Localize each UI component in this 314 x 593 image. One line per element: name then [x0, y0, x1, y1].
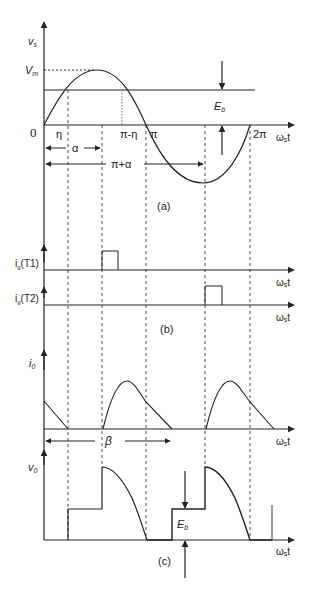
caption-b: (b): [160, 323, 173, 335]
origin-label: 0: [30, 125, 37, 140]
x-label-t1: ωst: [276, 277, 290, 288]
x-label-io: ωst: [276, 436, 290, 447]
vs-sine-wave: [44, 70, 250, 183]
vo-waveform-2: [147, 467, 272, 540]
caption-c: (c): [158, 555, 171, 567]
t2-gate-pulse: [205, 286, 222, 305]
panel-io: i0 β ωst: [29, 350, 294, 448]
beta-label: β: [104, 434, 112, 448]
io-initial-decay: [44, 401, 68, 429]
x-label-a: ωst: [276, 132, 290, 143]
caption-a: (a): [157, 200, 170, 212]
pi-minus-eta-label: π-η: [120, 128, 137, 140]
rectifier-waveform-diagram: vs Vm Eb 0 η π-η π 2π ωst α π+α (a): [0, 0, 314, 593]
panel-b: ig(T1) ωst ig(T2) ωst (b): [15, 200, 294, 540]
pi-plus-alpha-label: π+α: [111, 158, 132, 170]
vs-label: vs: [28, 35, 38, 48]
vm-label: Vm: [25, 64, 38, 77]
io-pulse-1: [103, 381, 172, 429]
t2-label: ig(T2): [15, 293, 39, 305]
vo-label: v0: [28, 461, 38, 474]
io-label: i0: [29, 357, 35, 370]
vo-waveform-1: [68, 467, 147, 540]
t1-label: ig(T1): [15, 258, 39, 270]
guide-lines: [68, 90, 250, 540]
alpha-label: α: [72, 142, 79, 154]
t1-gate-pulse: [102, 251, 118, 270]
eb-label-a: Eb: [214, 100, 225, 113]
x-label-t2: ωst: [276, 312, 290, 323]
panel-a: vs Vm Eb 0 η π-η π 2π ωst α π+α (a): [25, 22, 294, 212]
pi-label: π: [150, 128, 158, 140]
eta-label: η: [56, 128, 62, 140]
eb-label-c: Eb: [177, 518, 188, 531]
x-label-vo: ωst: [276, 546, 290, 557]
two-pi-label: 2π: [253, 128, 267, 140]
io-pulse-2: [206, 381, 274, 429]
